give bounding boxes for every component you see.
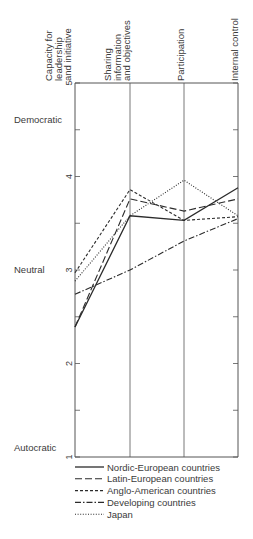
- category-labels: Capacity forleadershipand initiativeShar…: [43, 18, 240, 81]
- y-category-label: Autocratic: [14, 442, 56, 453]
- category-label: Participation: [175, 29, 186, 81]
- y-category-label: Neutral: [14, 264, 45, 275]
- category-label: and objectives: [121, 20, 132, 81]
- y-tick-label: 1: [64, 454, 74, 459]
- legend-label: Latin-European countries: [107, 473, 213, 484]
- y-labels: 12345DemocraticNeutralAutocratic: [14, 80, 74, 459]
- category-label: and initiative: [62, 28, 73, 81]
- series-line: [75, 219, 238, 295]
- series-line: [75, 180, 238, 281]
- legend-label: Nordic-European countries: [107, 462, 220, 473]
- series-lines: [75, 180, 238, 327]
- legend-label: Japan: [107, 509, 133, 520]
- series-line: [75, 188, 238, 327]
- parallel-coordinates-chart: 12345DemocraticNeutralAutocratic Capacit…: [0, 0, 253, 539]
- y-tick-label: 2: [64, 361, 74, 366]
- y-category-label: Democratic: [14, 114, 62, 125]
- y-tick-label: 3: [64, 267, 74, 272]
- y-tick-label: 4: [64, 174, 74, 179]
- category-label: Internal control: [229, 18, 240, 81]
- legend: Nordic-European countriesLatin-European …: [75, 462, 220, 520]
- legend-label: Anglo-American countries: [107, 485, 216, 496]
- legend-label: Developing countries: [107, 497, 196, 508]
